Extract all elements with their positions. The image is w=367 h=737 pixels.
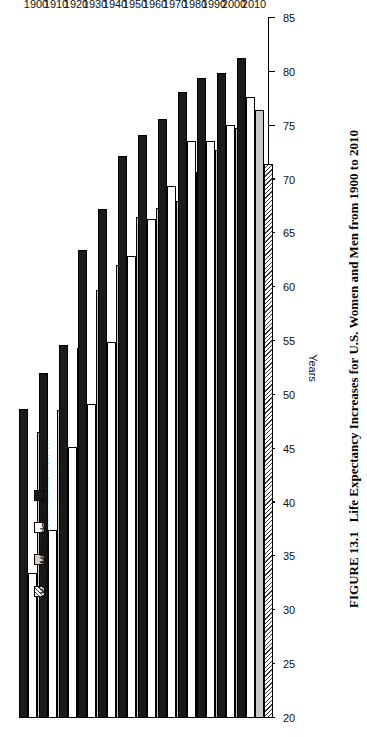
axis-tick-label: 40 xyxy=(283,497,295,509)
bar-white-men-2010 xyxy=(255,110,264,718)
bar-white-women-1940 xyxy=(98,209,107,718)
bar-nonwhite-women-1970 xyxy=(167,186,176,718)
category-label-2010: 2010 xyxy=(242,0,266,10)
legend-item-nonwhite-men: Nonwhite men xyxy=(34,584,108,597)
bar-nonwhite-women-1950 xyxy=(127,256,136,718)
axis-tick xyxy=(268,71,275,72)
figure-caption: FIGURE 13.1Life Expectancy Increases for… xyxy=(343,0,365,737)
axis-tick-label: 25 xyxy=(283,658,295,670)
legend-label-nonwhite-men: Nonwhite men xyxy=(38,532,50,599)
bar-nonwhite-women-1990 xyxy=(206,141,215,718)
bar-nonwhite-women-2000 xyxy=(226,125,235,718)
axis-tick-label: 75 xyxy=(283,120,295,132)
axis-tick-label: 45 xyxy=(283,443,295,455)
bar-white-women-2010 xyxy=(237,58,246,718)
bar-nonwhite-women-1980 xyxy=(187,141,196,718)
axis-tick-label: 30 xyxy=(283,604,295,616)
bar-nonwhite-women-1960 xyxy=(147,219,156,718)
axis-tick-label: 60 xyxy=(283,281,295,293)
axis-tick-label: 20 xyxy=(283,712,295,724)
axis-tick-label: 80 xyxy=(283,66,295,78)
bar-nonwhite-women-1940 xyxy=(107,342,116,718)
bar-white-women-1980 xyxy=(178,92,187,718)
axis-tick-label: 50 xyxy=(283,389,295,401)
bar-white-women-2000 xyxy=(217,73,226,718)
axis-tick-label: 65 xyxy=(283,227,295,239)
bar-white-women-1960 xyxy=(138,135,147,718)
axis-tick-label: 70 xyxy=(283,174,295,186)
bar-white-women-1900 xyxy=(19,409,28,718)
bar-white-women-1990 xyxy=(197,78,206,718)
caption-text: Life Expectancy Increases for U.S. Women… xyxy=(346,130,361,522)
axis-tick-label: 85 xyxy=(283,12,295,24)
legend: White womenNonwhite womenWhite menNonwhi… xyxy=(34,488,108,620)
plot-shift: 2025303540455055606570758085 Years 19001… xyxy=(0,0,367,737)
bar-white-women-1950 xyxy=(118,156,127,718)
axis-tick xyxy=(268,17,275,18)
value-axis-title: Years xyxy=(307,354,319,382)
axis-tick-label: 55 xyxy=(283,335,295,347)
figure-container: 2025303540455055606570758085 Years 19001… xyxy=(0,0,367,737)
axis-tick xyxy=(268,125,275,126)
bar-nonwhite-women-2010 xyxy=(246,97,255,718)
caption-number: FIGURE 13.1 xyxy=(346,531,361,608)
bar-white-women-1930 xyxy=(78,250,87,718)
bar-nonwhite-men-2010 xyxy=(264,164,273,718)
bar-white-women-1970 xyxy=(158,119,167,718)
axis-tick-label: 35 xyxy=(283,550,295,562)
